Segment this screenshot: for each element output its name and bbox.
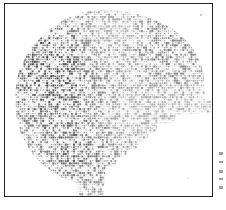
scan-speck-icon (200, 14, 202, 16)
ascii-head-profile-svg (5, 4, 212, 196)
figure-root (0, 0, 226, 210)
plate-frame (4, 3, 213, 197)
scan-margin-tick (219, 152, 223, 155)
scan-margin-tick (219, 186, 223, 189)
head-silhouette-group (5, 4, 212, 196)
scan-margin-tick (219, 170, 223, 173)
scan-margin-tick (219, 178, 223, 180)
scan-speck-icon (188, 178, 189, 179)
scan-margin-tick (219, 161, 223, 163)
ascii-art-canvas (5, 4, 212, 196)
